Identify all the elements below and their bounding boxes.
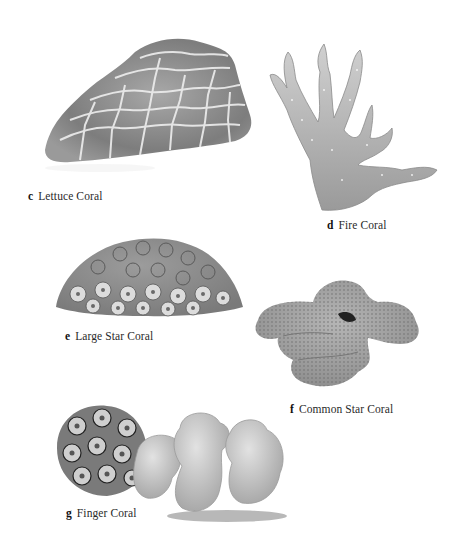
common-star-coral-illustration	[238, 272, 448, 397]
caption-large-star-coral: eLarge Star Coral	[65, 330, 153, 342]
fire-coral-illustration	[262, 30, 447, 215]
caption-lettuce-coral: cLettuce Coral	[28, 190, 102, 202]
caption-letter: e	[65, 330, 70, 342]
caption-letter: d	[327, 219, 334, 231]
caption-fire-coral: dFire Coral	[327, 219, 386, 231]
caption-letter: c	[28, 190, 33, 202]
caption-text: Fire Coral	[339, 219, 387, 231]
caption-text: Finger Coral	[77, 507, 137, 519]
caption-common-star-coral: fCommon Star Coral	[290, 403, 393, 415]
caption-text: Large Star Coral	[75, 330, 153, 342]
large-star-coral-illustration	[48, 232, 253, 320]
caption-text: Lettuce Coral	[38, 190, 102, 202]
lettuce-coral-illustration	[40, 30, 270, 180]
caption-finger-coral: gFinger Coral	[66, 507, 137, 519]
caption-text: Common Star Coral	[299, 403, 393, 415]
caption-letter: g	[66, 507, 72, 519]
